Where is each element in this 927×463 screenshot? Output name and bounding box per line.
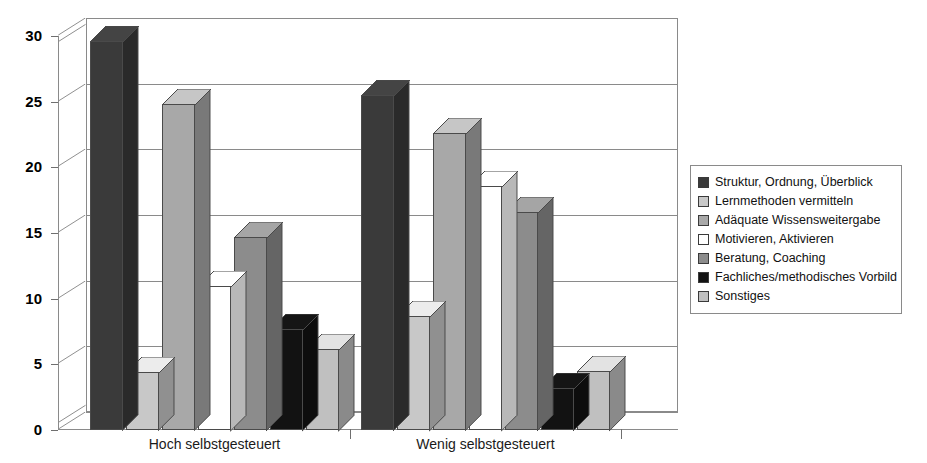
bar-side-face xyxy=(266,222,282,415)
x-axis-category-label: Wenig selbstgesteuert xyxy=(376,436,596,452)
bar-top-face xyxy=(162,89,195,105)
bar-top-face xyxy=(433,118,466,134)
bar-front-face xyxy=(361,95,394,430)
legend-swatch-icon xyxy=(698,196,709,207)
x-axis-category-label: Hoch selbstgesteuert xyxy=(105,436,325,452)
bar-side-face xyxy=(537,197,553,415)
legend-swatch-icon xyxy=(698,291,709,302)
legend-item-label: Sonstiges xyxy=(715,290,770,303)
legend-item-label: Lernmethoden vermitteln xyxy=(715,195,853,208)
bar-side-face xyxy=(465,118,481,415)
legend-swatch-icon xyxy=(698,253,709,264)
legend-swatch-icon xyxy=(698,234,709,245)
legend-swatch-icon xyxy=(698,177,709,188)
bar-side-face xyxy=(429,301,445,415)
legend-item: Struktur, Ordnung, Überblick xyxy=(698,173,893,192)
bar-side-face xyxy=(122,26,138,415)
bar-top-face xyxy=(577,356,610,372)
legend-swatch-icon xyxy=(698,272,709,283)
bar xyxy=(90,41,123,430)
bar xyxy=(361,95,394,430)
legend-item: Motivieren, Aktivieren xyxy=(698,230,893,249)
legend-item: Sonstiges xyxy=(698,287,893,306)
legend-item: Adäquate Wissensweitergabe xyxy=(698,211,893,230)
legend-item-label: Fachliches/methodisches Vorbild xyxy=(715,271,897,284)
legend-item-label: Motivieren, Aktivieren xyxy=(715,233,834,246)
legend-item: Fachliches/methodisches Vorbild xyxy=(698,268,893,287)
legend-item-label: Adäquate Wissensweitergabe xyxy=(715,214,880,227)
bar-top-face xyxy=(234,222,267,238)
bar-top-face xyxy=(361,80,394,96)
legend-item-label: Beratung, Coaching xyxy=(715,252,826,265)
bar-chart: 051015202530 Hoch selbstgesteuertWenig s… xyxy=(0,0,927,463)
bar-side-face xyxy=(230,271,246,415)
chart-legend: Struktur, Ordnung, ÜberblickLernmethoden… xyxy=(690,165,902,314)
legend-item: Beratung, Coaching xyxy=(698,249,893,268)
legend-items: Struktur, Ordnung, ÜberblickLernmethoden… xyxy=(698,173,893,306)
bar-side-face xyxy=(393,80,409,415)
legend-swatch-icon xyxy=(698,215,709,226)
legend-item: Lernmethoden vermitteln xyxy=(698,192,893,211)
bar-top-face xyxy=(90,26,123,42)
bar-side-face xyxy=(501,171,517,415)
bar-side-face xyxy=(194,89,210,415)
bar-front-face xyxy=(90,41,123,430)
legend-item-label: Struktur, Ordnung, Überblick xyxy=(715,176,873,189)
